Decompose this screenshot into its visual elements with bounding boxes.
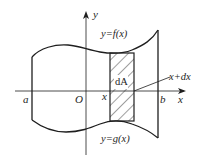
lower-curve xyxy=(32,120,158,138)
lower-curve-label: y=g(x) xyxy=(100,133,130,145)
area-strip xyxy=(110,53,134,121)
b-label: b xyxy=(160,93,166,105)
area-between-curves-diagram: y x O a b x x+dx dA y=f(x) y=g(x) xyxy=(0,0,208,165)
dA-label: dA xyxy=(115,76,128,87)
x-plus-dx-label: x+dx xyxy=(168,71,191,82)
upper-curve-label: y=f(x) xyxy=(100,28,128,40)
y-axis-label: y xyxy=(92,8,98,20)
x-label: x xyxy=(101,90,107,102)
origin-label: O xyxy=(75,93,83,105)
x-axis-label: x xyxy=(177,93,183,105)
upper-curve xyxy=(32,30,158,57)
x-plus-dx-leader-line xyxy=(134,77,170,91)
a-label: a xyxy=(23,93,29,105)
y-axis xyxy=(83,11,89,155)
